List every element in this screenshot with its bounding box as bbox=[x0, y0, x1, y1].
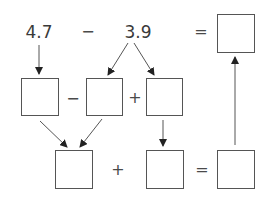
arrow-box-b-to-box-d bbox=[80, 119, 102, 147]
arrows-layer bbox=[0, 0, 270, 205]
arrow-box-a-to-box-d bbox=[40, 121, 67, 147]
arrow-3.9-to-box-b bbox=[108, 43, 128, 75]
arrow-3.9-to-box-c bbox=[134, 43, 154, 75]
